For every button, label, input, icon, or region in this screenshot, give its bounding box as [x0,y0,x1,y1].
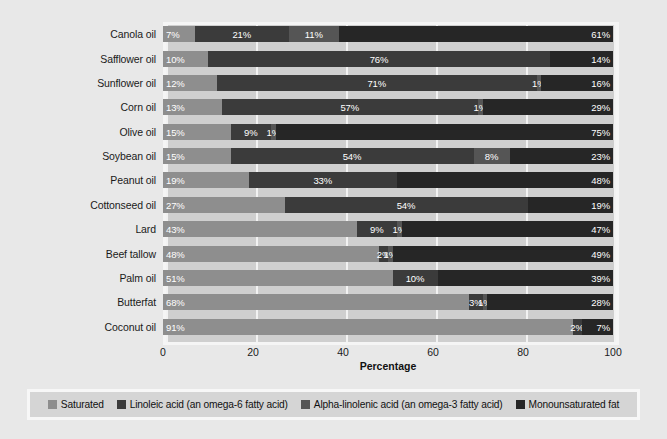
bar-segment-label: 91% [166,322,185,333]
bar-segment-label: 9% [370,224,384,235]
bar-segment-label: 12% [166,78,185,89]
bar-segment-label: 13% [166,102,185,113]
bar-segment-label: 15% [166,151,185,162]
chart-legend: SaturatedLinoleic acid (an omega-6 fatty… [27,389,640,420]
bar-segment-label: 16% [591,78,610,89]
stacked-bar: 48%2%1%49% [163,246,613,262]
bar-segment-label: 19% [166,175,185,186]
y-axis-label: Safflower oil [0,51,156,67]
bar-segment-label: 7% [596,322,610,333]
stacked-bar: 12%71%1%16% [163,75,613,91]
bar-row: 48%2%1%49% [163,246,613,262]
y-axis-label: Palm oil [0,270,156,286]
legend-swatch-icon [117,400,126,409]
bar-segment-label: 68% [166,297,185,308]
bar-row: 51%10%Trace39% [163,270,613,286]
bar-segment [402,221,614,237]
stacked-bar: 7%21%11%61% [163,26,613,42]
legend-swatch-icon [301,400,310,409]
chart-figure: Canola oilSafflower oilSunflower oilCorn… [0,0,667,439]
y-axis-label: Corn oil [0,99,156,115]
bar-segment-label: 57% [340,102,359,113]
bar-segment-label: 49% [591,249,610,260]
bar-segment [397,172,613,188]
bar-segment [339,26,614,42]
bar-segment-label: 28% [591,297,610,308]
y-axis-label: Sunflower oil [0,75,156,91]
legend-label: Alpha-linolenic acid (an omega-3 fatty a… [314,399,503,410]
stacked-bar: 43%9%1%47% [163,221,613,237]
bar-segment-label: 8% [485,151,499,162]
bar-segment-label: 48% [591,175,610,186]
y-axis-label: Butterfat [0,294,156,310]
x-tick-label: 40 [337,346,349,358]
bar-segment-label: 61% [591,29,610,40]
bar-segment-label: 15% [166,127,185,138]
legend-item[interactable]: Monounsaturated fat [516,399,620,410]
bar-segment-label: 7% [166,29,180,40]
bar-segment-label: 54% [397,200,416,211]
legend-label: Monounsaturated fat [529,399,620,410]
legend-label: Saturated [61,399,104,410]
bar-row: 13%57%1%29% [163,99,613,115]
x-tick-label: 20 [247,346,259,358]
bar-segment [163,294,469,310]
x-tick-label: 60 [427,346,439,358]
y-axis-label: Peanut oil [0,172,156,188]
bar-segment [438,270,614,286]
bar-segment-label: 48% [166,249,185,260]
bar-segment-label: 23% [591,151,610,162]
bar-segment-label: 27% [166,200,185,211]
bar-segment-label: 19% [591,200,610,211]
bar-segment-label: 29% [591,102,610,113]
x-axis-title: Percentage [163,360,613,372]
legend-swatch-icon [48,400,57,409]
stacked-bar: 19%33%Trace48% [163,172,613,188]
gridline [614,25,616,342]
bar-segment [163,270,393,286]
bar-segment-label: 14% [591,54,610,65]
y-axis-label: Coconut oil [0,319,156,335]
bar-row: 7%21%11%61% [163,26,613,42]
bar-row: 10%76%Trace14% [163,51,613,67]
bar-rows: 7%21%11%61%10%76%Trace14%12%71%1%16%13%5… [163,22,613,339]
bar-segment-label: 71% [367,78,386,89]
stacked-bar: 10%76%Trace14% [163,51,613,67]
bar-row: 91%2%7% [163,319,613,335]
stacked-bar: 68%3%1%28% [163,294,613,310]
bar-row: 19%33%Trace48% [163,172,613,188]
bar-segment [163,246,379,262]
bar-segment-label: 10% [406,273,425,284]
bar-segment-label: 47% [591,224,610,235]
y-axis-label: Lard [0,221,156,237]
stacked-bar: 15%54%8%23% [163,148,613,164]
legend-item[interactable]: Alpha-linolenic acid (an omega-3 fatty a… [301,399,503,410]
bar-row: 15%54%8%23% [163,148,613,164]
bar-segment-label: 21% [232,29,251,40]
bar-segment-label: 11% [305,29,323,40]
bar-segment-label: 76% [370,54,389,65]
stacked-bar: 27%54%Trace19% [163,197,613,213]
legend-item[interactable]: Linoleic acid (an omega-6 fatty acid) [117,399,288,410]
bar-row: 68%3%1%28% [163,294,613,310]
x-tick-label: 100 [604,346,622,358]
stacked-bar: 15%9%1%75% [163,124,613,140]
bar-row: 15%9%1%75% [163,124,613,140]
bar-row: 12%71%1%16% [163,75,613,91]
legend-item[interactable]: Saturated [48,399,104,410]
stacked-bar: 51%10%Trace39% [163,270,613,286]
bar-row: 27%54%Trace19% [163,197,613,213]
bar-segment [393,246,614,262]
y-axis-label: Cottonseed oil [0,197,156,213]
y-axis-category-labels: Canola oilSafflower oilSunflower oilCorn… [0,22,156,339]
bar-segment-label: 9% [244,127,258,138]
bar-segment [276,124,614,140]
legend-label: Linoleic acid (an omega-6 fatty acid) [130,399,288,410]
bar-segment-label: 54% [343,151,362,162]
x-tick-label: 80 [517,346,529,358]
y-axis-label: Canola oil [0,26,156,42]
bar-segment [163,319,573,335]
x-tick-label: 0 [160,346,166,358]
y-axis-label: Beef tallow [0,246,156,262]
bar-segment-label: 75% [591,127,610,138]
